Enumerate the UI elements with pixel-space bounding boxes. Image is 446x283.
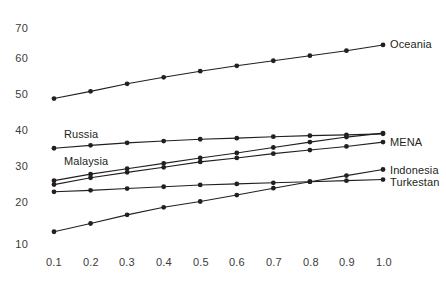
data-point [88, 89, 93, 94]
data-point [381, 140, 386, 145]
series-line [54, 134, 383, 148]
series-label-russia: Russia [64, 128, 98, 140]
data-point [198, 199, 203, 204]
data-point [234, 156, 239, 161]
y-tick-label-40: 40 [2, 124, 28, 136]
series-line [54, 180, 383, 192]
data-point [161, 184, 166, 189]
chart-plot-area [0, 0, 446, 283]
line-chart: 70 60 50 40 30 20 10 0.1 0.2 0.3 0.4 0.5… [0, 0, 446, 283]
series-line [54, 45, 383, 99]
data-point [234, 151, 239, 156]
y-tick-label-60: 60 [2, 52, 28, 64]
data-point [307, 140, 312, 145]
data-point [234, 136, 239, 141]
data-point [125, 81, 130, 86]
x-tick-label-0-1: 0.1 [39, 256, 69, 268]
data-point [307, 133, 312, 138]
data-point [271, 134, 276, 139]
data-point [125, 170, 130, 175]
series-line [54, 169, 383, 231]
data-point [234, 63, 239, 68]
series-label-turkestan: Turkestan [390, 176, 439, 188]
x-tick-label-0-2: 0.2 [76, 256, 106, 268]
data-point [88, 221, 93, 226]
data-point [198, 183, 203, 188]
data-point [307, 148, 312, 153]
data-point [344, 173, 349, 178]
data-point [161, 75, 166, 80]
data-point [381, 167, 386, 172]
series-layer [52, 43, 386, 235]
data-point [344, 144, 349, 149]
data-point [88, 188, 93, 193]
x-tick-label-1-0: 1.0 [369, 256, 399, 268]
x-tick-label-0-9: 0.9 [332, 256, 362, 268]
y-tick-label-20: 20 [2, 196, 28, 208]
x-tick-label-0-8: 0.8 [296, 256, 326, 268]
y-tick-label-50: 50 [2, 88, 28, 100]
series-label-mena: MENA [390, 136, 422, 148]
data-point [307, 179, 312, 184]
x-tick-label-0-5: 0.5 [186, 256, 216, 268]
data-point [52, 189, 57, 194]
data-point [125, 186, 130, 191]
data-point [381, 177, 386, 182]
series-label-indonesia: Indonesia [390, 164, 439, 176]
data-point [271, 186, 276, 191]
data-point [234, 181, 239, 186]
data-point [52, 229, 57, 234]
data-point [52, 146, 57, 151]
data-point [198, 137, 203, 142]
data-point [271, 180, 276, 185]
data-point [125, 140, 130, 145]
data-point [344, 178, 349, 183]
y-tick-label-70: 70 [2, 22, 28, 34]
data-point [52, 182, 57, 187]
data-point [344, 48, 349, 53]
x-tick-label-0-6: 0.6 [222, 256, 252, 268]
data-point [344, 135, 349, 140]
data-point [381, 131, 386, 136]
x-tick-label-0-7: 0.7 [259, 256, 289, 268]
data-point [161, 205, 166, 210]
y-tick-label-10: 10 [2, 238, 28, 250]
data-point [88, 143, 93, 148]
data-point [271, 145, 276, 150]
data-point [198, 160, 203, 165]
data-point [271, 151, 276, 156]
series-indonesia [52, 167, 386, 234]
series-turkestan [52, 177, 386, 194]
data-point [271, 58, 276, 63]
data-point [161, 165, 166, 170]
series-label-oceania: Oceania [390, 38, 432, 50]
series-label-malaysia: Malaysia [64, 155, 108, 167]
x-tick-label-0-4: 0.4 [149, 256, 179, 268]
data-point [161, 139, 166, 144]
series-oceania [52, 43, 386, 101]
x-tick-label-0-3: 0.3 [112, 256, 142, 268]
data-point [88, 175, 93, 180]
data-point [307, 53, 312, 58]
data-point [381, 43, 386, 48]
data-point [198, 69, 203, 74]
y-tick-label-30: 30 [2, 160, 28, 172]
data-point [234, 193, 239, 198]
data-point [125, 212, 130, 217]
data-point [52, 96, 57, 101]
